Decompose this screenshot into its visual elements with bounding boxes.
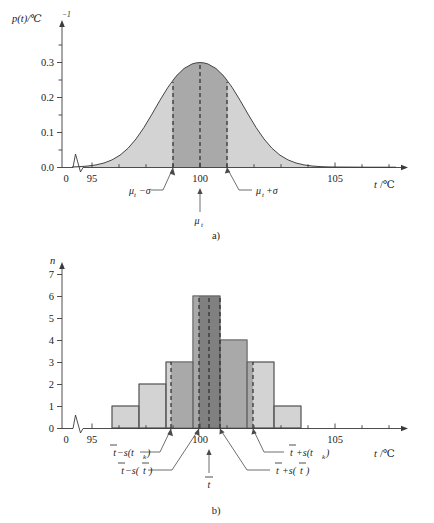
panel-b-annot-1-close: )	[146, 447, 151, 459]
panel-a-y-ticklabel-3: 0.3	[41, 57, 54, 68]
panel-a-annotation-mu-minus-sigma-text: μ t −σ	[128, 185, 152, 199]
panel-a-annotation-mu-plus-sigma: μ t +σ	[225, 168, 279, 200]
panel-a-x-ticklabel-100: 100	[192, 173, 208, 184]
panel-b-annot-tbar: t	[205, 477, 213, 490]
panel-a-x-ticklabel-105: 105	[327, 173, 343, 184]
panel-b-annot-5-tbar: t	[290, 447, 293, 458]
panel-a-annotation-mu-minus-sigma: μ t −σ	[128, 168, 175, 200]
panel-b-annot-2-tbar2: t	[143, 465, 146, 476]
panel-a-y-ticklabel-2: 0.2	[41, 92, 54, 103]
table-row	[139, 384, 166, 428]
panel-a-y-ticklabel-1: 0.1	[41, 127, 54, 138]
panel-b-y-ticklabel-2: 2	[49, 379, 54, 390]
panel-a-x-ticklabel-0: 0	[63, 173, 68, 184]
panel-a-x-axis-label-unit: /℃	[380, 179, 395, 190]
panel-b-annot-4-tbar: t	[276, 465, 279, 476]
panel-b-annot-tbar-plus-s-tbar: t +s( t )	[275, 463, 310, 477]
panel-b-annot-1-rest: −s(t	[117, 447, 134, 459]
panel-b-x-ticklabel-95: 95	[87, 434, 98, 445]
panel-b-y-axis-arrow	[59, 262, 65, 269]
panel-b-y-ticklabel-5: 5	[49, 313, 54, 324]
panel-b-x-axis-label-unit: /℃	[380, 448, 395, 459]
panel-b-x-ticklabel-105: 105	[327, 434, 343, 445]
panel-b-annot-2-rest: −s(	[125, 465, 140, 477]
panel-b-y-ticklabel-6: 6	[49, 291, 54, 302]
panel-a-y-axis-label-text: p(t)/℃	[11, 13, 42, 25]
panel-a-annot-right-sub: t	[262, 191, 265, 199]
panel-a-y-ticklabel-0: 0.0	[41, 162, 54, 173]
figure-svg: p(t)/℃ −1 0.3 0.2	[0, 0, 434, 523]
panel-b-annot-2-close: )	[148, 465, 153, 477]
panel-b-annot-4-close: )	[305, 465, 310, 477]
panel-b-annot-5-rest: +s(t	[296, 447, 313, 459]
panel-b-x-axis-break	[70, 415, 86, 433]
panel-b-y-ticklabel-0: 0	[49, 423, 54, 434]
panel-b-x-axis-label-var: t	[374, 448, 378, 459]
panel-b-annotation-leaders	[140, 429, 284, 474]
panel-b-annot-4-tbar2: t	[300, 465, 303, 476]
panel-a-x-axis-label-var: t	[374, 179, 378, 190]
panel-b-annot-tbar-minus-s-tk: t −s(t k )	[110, 445, 151, 461]
panel-a-annotation-mu-text: μ t	[193, 215, 204, 229]
panel-b-x-axis-arrow	[401, 426, 408, 432]
panel-a-annot-right-rest: +σ	[266, 185, 279, 196]
table-row	[112, 406, 139, 428]
panel-b: n	[49, 255, 408, 517]
table-row	[274, 406, 301, 428]
panel-a-x-axis-break	[70, 154, 86, 172]
panel-b-x-axis-label: t /℃	[374, 448, 395, 459]
panel-b-annot-tbar-minus-s-tbar: t −s( t )	[118, 463, 153, 477]
panel-b-annot-5-close: )	[325, 447, 330, 459]
panel-a-y-ticks	[57, 45, 62, 168]
panel-a-annot-right-var: μ	[255, 185, 261, 196]
panel-b-annot-1-tbar: t	[113, 447, 116, 458]
panel-a-annot-left-sub: t	[134, 191, 137, 199]
panel-a-x-axis-arrow	[401, 165, 408, 171]
panel-b-y-ticks	[57, 275, 62, 429]
panel-b-y-ticklabel-1: 1	[49, 401, 54, 412]
panel-b-y-axis-label: n	[50, 255, 55, 266]
panel-a-x-ticklabel-95: 95	[87, 173, 98, 184]
panel-a-annot-center-sub: t	[201, 221, 204, 229]
panel-a-annot-center-var: μ	[193, 215, 199, 226]
panel-b-annot-2-tbar: t	[121, 465, 124, 476]
panel-b-y-ticklabel-3: 3	[49, 357, 54, 368]
panel-a-annot-left-rest: −σ	[139, 185, 152, 196]
panel-b-annot-tbar-plus-s-tk: t +s(t k )	[289, 445, 330, 461]
panel-b-caption: b)	[212, 505, 221, 517]
panel-b-annot-4-rest: +s(	[282, 465, 297, 477]
panel-a-annotation-mu-plus-sigma-text: μ t +σ	[255, 185, 279, 199]
panel-a-x-axis-label: t /℃	[374, 179, 395, 190]
panel-b-annot-3-tbar: t	[208, 479, 211, 490]
statistics-figure: p(t)/℃ −1 0.3 0.2	[0, 0, 434, 523]
panel-b-x-ticklabel-0: 0	[63, 434, 68, 445]
panel-a-y-axis-arrow	[59, 20, 65, 27]
panel-a: p(t)/℃ −1 0.3 0.2	[11, 10, 408, 242]
panel-a-caption: a)	[212, 230, 221, 242]
panel-a-y-axis-label-exponent: −1	[62, 10, 71, 19]
panel-a-annotation-mu: μ t	[193, 188, 204, 229]
panel-b-y-ticklabel-4: 4	[49, 335, 55, 346]
panel-b-y-ticklabel-7: 7	[49, 269, 54, 280]
panel-a-area-outside-sigma	[72, 63, 396, 168]
